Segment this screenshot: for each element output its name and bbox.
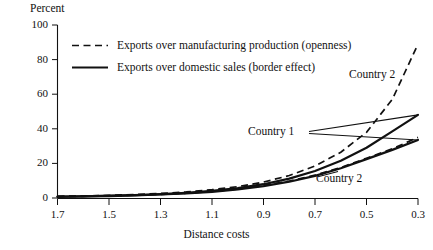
x-tick-label-0-3: 0.3 <box>401 208 433 220</box>
axes <box>52 25 418 205</box>
legend-label-openness: Exports over manufacturing production (o… <box>117 39 351 51</box>
series-border-effect-country-1 <box>58 115 419 197</box>
annotation-country-2-openness: Country 2 <box>349 68 395 80</box>
x-tick-label-1-5: 1.5 <box>92 208 126 220</box>
x-axis-ticks <box>58 199 419 206</box>
leader-line-country-1-upper <box>309 115 418 132</box>
annotation-country-2-border-effect: Country 2 <box>316 172 362 184</box>
leader-line-country-1-lower <box>309 134 418 141</box>
y-tick-label-60: 60 <box>22 87 48 99</box>
legend-line-samples <box>72 46 108 68</box>
annotation-country-1: Country 1 <box>248 125 294 137</box>
y-tick-label-100: 100 <box>22 18 48 30</box>
x-tick-label-0-5: 0.5 <box>350 208 384 220</box>
y-axis-ticks <box>52 25 58 198</box>
x-tick-label-1-3: 1.3 <box>144 208 178 220</box>
x-tick-label-1-7: 1.7 <box>41 208 75 220</box>
legend-label-border-effect: Exports over domestic sales (border effe… <box>117 61 315 73</box>
x-tick-label-1-1: 1.1 <box>195 208 229 220</box>
x-tick-label-0-9: 0.9 <box>247 208 281 220</box>
x-axis-title: Distance costs <box>0 228 433 240</box>
x-tick-label-0-7: 0.7 <box>298 208 332 220</box>
y-tick-label-20: 20 <box>22 156 48 168</box>
y-tick-label-40: 40 <box>22 122 48 134</box>
y-tick-label-80: 80 <box>22 53 48 65</box>
chart-figure: Percent <box>0 0 433 250</box>
y-tick-label-0: 0 <box>22 191 48 203</box>
